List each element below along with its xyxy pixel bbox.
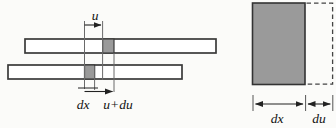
right-diagram: dx du: [253, 3, 333, 126]
element-rect: [253, 3, 306, 85]
axial-deformation-diagram: u dx u+du dx du: [0, 0, 336, 128]
top-bar-shaded-element: [103, 39, 114, 53]
figure-canvas: u dx u+du dx du: [0, 0, 336, 128]
left-diagram: u dx u+du: [8, 8, 216, 113]
bottom-bar-shaded-element: [85, 65, 95, 79]
top-bar: [25, 39, 216, 53]
u-plus-du-label: u+du: [103, 97, 133, 112]
dashed-elongation-outline: [307, 3, 333, 84]
dx-label: dx: [77, 97, 90, 112]
du-detail-label: du: [312, 111, 326, 126]
dx-detail-label: dx: [271, 111, 284, 126]
u-label: u: [92, 8, 99, 23]
